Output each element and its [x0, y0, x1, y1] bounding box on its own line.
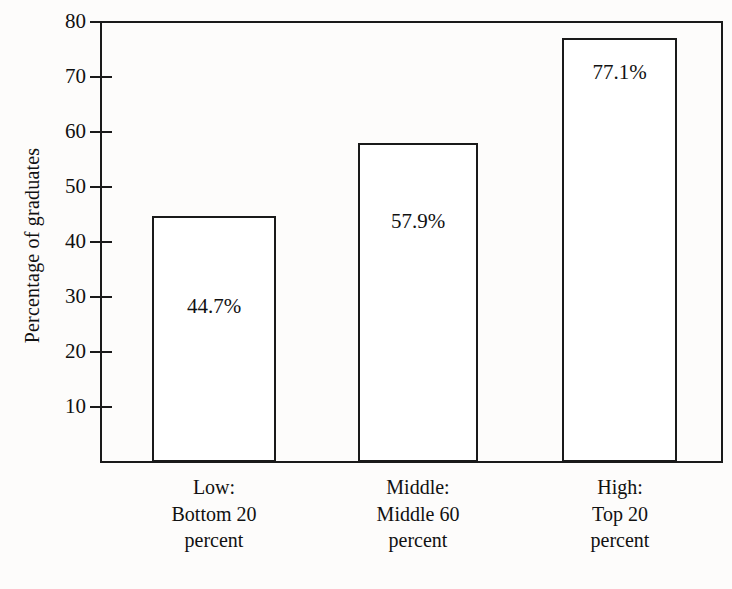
- category-label-high-line2: Top 20: [530, 501, 710, 528]
- category-label-low-line1: Low:: [124, 474, 304, 501]
- category-label-low: Low: Bottom 20 percent: [124, 474, 304, 554]
- category-label-middle: Middle: Middle 60 percent: [328, 474, 508, 554]
- bar-middle: 57.9%: [358, 143, 478, 462]
- y-tick-label-30: 30: [42, 286, 86, 307]
- y-tick-label-20: 20: [42, 341, 86, 362]
- y-tick-label-40: 40: [42, 231, 86, 252]
- y-tick-label-10: 10: [42, 396, 86, 417]
- y-tick-label-70: 70: [42, 66, 86, 87]
- plot-frame-right: [721, 22, 723, 463]
- category-label-high-line3: percent: [530, 527, 710, 554]
- category-label-middle-line2: Middle 60: [328, 501, 508, 528]
- category-label-low-line2: Bottom 20: [124, 501, 304, 528]
- bar-high: 77.1%: [562, 38, 677, 462]
- bar-value-middle: 57.9%: [360, 211, 476, 232]
- category-label-high-line1: High:: [530, 474, 710, 501]
- y-tick-label-80: 80: [42, 11, 86, 32]
- category-label-middle-line3: percent: [328, 527, 508, 554]
- bar-low: 44.7%: [152, 216, 276, 462]
- category-label-high: High: Top 20 percent: [530, 474, 710, 554]
- plot-frame-top: [100, 21, 723, 23]
- bar-value-high: 77.1%: [564, 62, 675, 83]
- y-tick-label-50: 50: [42, 176, 86, 197]
- category-label-low-line3: percent: [124, 527, 304, 554]
- y-axis-line: [100, 22, 102, 463]
- category-label-middle-line1: Middle:: [328, 474, 508, 501]
- bar-value-low: 44.7%: [154, 296, 274, 317]
- y-axis-title: Percentage of graduates: [21, 96, 44, 396]
- bar-chart: Percentage of graduates 80 70 60 50 40 3…: [0, 0, 732, 589]
- y-tick-label-60: 60: [42, 121, 86, 142]
